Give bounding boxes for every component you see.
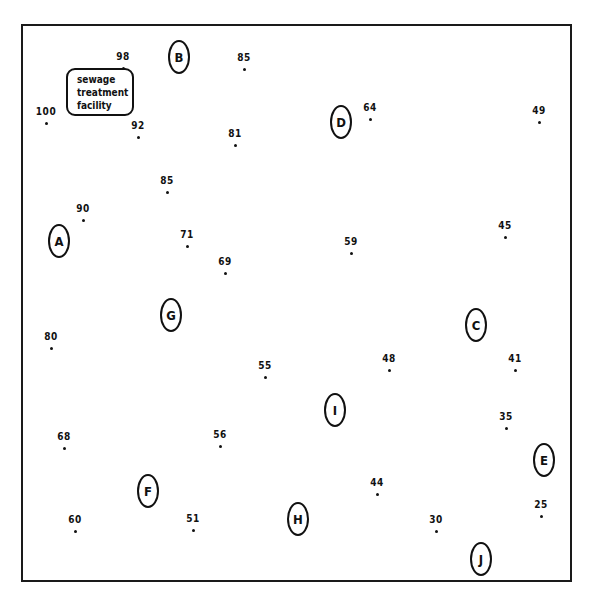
site-marker-e: E	[533, 443, 555, 477]
measurement-value: 68	[44, 431, 84, 443]
site-marker-c: C	[465, 308, 487, 342]
sample-dot-icon	[435, 530, 438, 533]
measurement-value: 64	[350, 102, 390, 114]
sample-dot-icon	[166, 191, 169, 194]
sample-dot-icon	[192, 529, 195, 532]
facility-label-line-1: sewage	[77, 73, 132, 86]
measurement-value: 48	[369, 353, 409, 365]
measurement-value: 44	[357, 477, 397, 489]
sample-dot-icon	[137, 136, 140, 139]
measurement-value: 56	[200, 429, 240, 441]
site-marker-g: G	[160, 298, 182, 332]
sample-dot-icon	[514, 369, 517, 372]
sample-dot-icon	[50, 347, 53, 350]
sample-dot-icon	[234, 144, 237, 147]
measurement-value: 51	[173, 513, 213, 525]
facility-label-line-3: facility	[77, 99, 132, 112]
site-marker-b: B	[168, 40, 190, 74]
measurement-value: 71	[167, 229, 207, 241]
measurement-value: 49	[519, 105, 559, 117]
sample-dot-icon	[74, 530, 77, 533]
measurement-value: 69	[205, 256, 245, 268]
measurement-value: 90	[63, 203, 103, 215]
sample-dot-icon	[122, 67, 125, 70]
measurement-value: 30	[416, 514, 456, 526]
sample-dot-icon	[369, 118, 372, 121]
sample-dot-icon	[82, 219, 85, 222]
sample-dot-icon	[63, 447, 66, 450]
measurement-value: 81	[215, 128, 255, 140]
sample-dot-icon	[505, 427, 508, 430]
sample-dot-icon	[45, 122, 48, 125]
facility-label-line-2: treatment	[77, 86, 132, 99]
measurement-value: 85	[224, 52, 264, 64]
site-marker-h: H	[287, 502, 309, 536]
measurement-value: 25	[521, 499, 561, 511]
sample-dot-icon	[540, 515, 543, 518]
sample-dot-icon	[186, 245, 189, 248]
sample-dot-icon	[376, 493, 379, 496]
sample-dot-icon	[388, 369, 391, 372]
measurement-value: 85	[147, 175, 187, 187]
sample-dot-icon	[224, 272, 227, 275]
site-marker-f: F	[137, 474, 159, 508]
sample-dot-icon	[243, 68, 246, 71]
site-marker-a: A	[48, 224, 70, 258]
sample-dot-icon	[538, 121, 541, 124]
measurement-value: 41	[495, 353, 535, 365]
sample-dot-icon	[350, 252, 353, 255]
sewage-treatment-facility-box: sewage treatment facility	[66, 68, 134, 116]
sample-dot-icon	[504, 236, 507, 239]
measurement-value: 55	[245, 360, 285, 372]
measurement-value: 80	[31, 331, 71, 343]
site-marker-i: I	[324, 393, 346, 427]
sample-dot-icon	[219, 445, 222, 448]
measurement-value: 92	[118, 120, 158, 132]
measurement-value: 59	[331, 236, 371, 248]
site-marker-d: D	[330, 105, 352, 139]
measurement-value: 100	[26, 106, 66, 118]
measurement-value: 35	[486, 411, 526, 423]
measurement-value: 45	[485, 220, 525, 232]
sample-dot-icon	[264, 376, 267, 379]
measurement-value: 60	[55, 514, 95, 526]
site-marker-j: J	[470, 542, 492, 576]
measurement-value: 98	[103, 51, 143, 63]
